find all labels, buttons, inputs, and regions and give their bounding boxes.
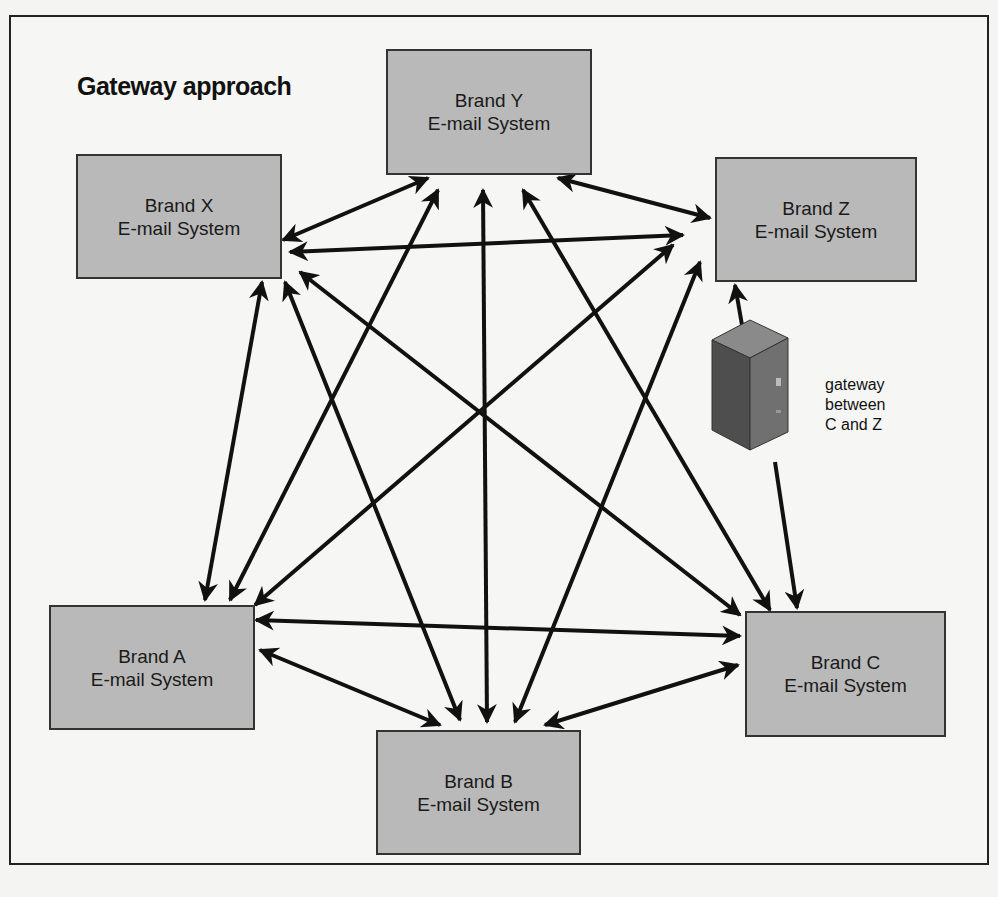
node-sublabel: E-mail System — [428, 112, 550, 135]
node-sublabel: E-mail System — [417, 793, 539, 816]
edge-x-y — [283, 178, 428, 240]
edge-gateway-c — [775, 462, 797, 608]
node-label: Brand X — [145, 194, 214, 217]
node-label: Brand Y — [455, 89, 523, 112]
gateway-label: gateway between C and Z — [825, 375, 886, 435]
node-brand-x: Brand X E-mail System — [76, 154, 282, 279]
node-brand-y: Brand Y E-mail System — [386, 49, 592, 175]
node-brand-b: Brand B E-mail System — [376, 730, 581, 855]
edge-a-c — [256, 620, 740, 636]
edge-b-c — [545, 665, 738, 725]
gateway-label-line: gateway — [825, 375, 886, 395]
node-brand-a: Brand A E-mail System — [49, 605, 255, 730]
node-label: Brand C — [811, 651, 881, 674]
server-tower-icon — [712, 320, 788, 450]
gateway-label-line: C and Z — [825, 415, 886, 435]
edge-gateway-z — [735, 285, 742, 325]
node-brand-c: Brand C E-mail System — [745, 611, 946, 737]
node-brand-z: Brand Z E-mail System — [715, 157, 917, 282]
node-sublabel: E-mail System — [118, 217, 240, 240]
node-label: Brand B — [444, 770, 513, 793]
node-label: Brand A — [118, 645, 186, 668]
node-sublabel: E-mail System — [755, 220, 877, 243]
edge-a-b — [260, 650, 440, 725]
edge-x-b — [285, 282, 460, 720]
edge-y-z — [558, 178, 710, 218]
gateway-label-line: between — [825, 395, 886, 415]
edge-x-z — [290, 235, 683, 252]
edge-y-b — [483, 190, 487, 722]
node-label: Brand Z — [782, 197, 850, 220]
node-sublabel: E-mail System — [784, 674, 906, 697]
node-sublabel: E-mail System — [91, 668, 213, 691]
